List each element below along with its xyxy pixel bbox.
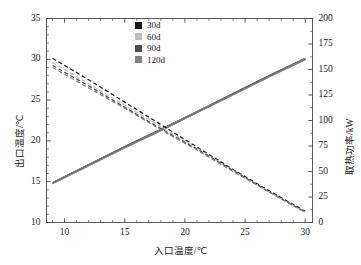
legend-item-30d[interactable]: 30d (135, 20, 165, 30)
x-tick-label-15: 15 (111, 227, 139, 237)
y-right-tick-label-0: 0 (319, 217, 343, 227)
legend-label-30d: 30d (147, 20, 161, 30)
y-left-tick-label-15: 15 (19, 176, 41, 186)
x-tick-label-25: 25 (231, 227, 259, 237)
legend-item-90d[interactable]: 90d (135, 43, 165, 53)
legend-item-60d[interactable]: 60d (135, 32, 165, 42)
y-right-tick-label-25: 25 (319, 191, 343, 201)
legend-item-120d[interactable]: 120d (135, 55, 165, 65)
y-right-tick-label-50: 50 (319, 166, 343, 176)
legend-label-60d: 60d (147, 32, 161, 42)
chart-figure (0, 0, 361, 265)
series-line-30d-right (53, 58, 306, 211)
chart-legend: 30d60d90d120d (135, 20, 165, 65)
y-right-tick-label-200: 200 (319, 13, 343, 23)
legend-label-120d: 120d (147, 55, 165, 65)
x-axis-title: 入口温度/℃ (0, 243, 361, 257)
y-left-tick-label-30: 30 (19, 53, 41, 63)
x-tick-label-30: 30 (291, 227, 319, 237)
legend-swatch-icon-60d (135, 33, 142, 40)
x-tick-label-10: 10 (51, 227, 79, 237)
legend-label-90d: 90d (147, 43, 161, 53)
series-line-120d-right (53, 67, 306, 212)
y-right-tick-label-175: 175 (319, 38, 343, 48)
y-right-tick-label-100: 100 (319, 115, 343, 125)
legend-swatch-icon-90d (135, 45, 142, 52)
legend-swatch-icon-120d (135, 56, 142, 63)
series-line-120d-left (53, 60, 306, 184)
y-left-tick-label-20: 20 (19, 135, 41, 145)
y-right-tick-label-125: 125 (319, 89, 343, 99)
y-left-tick-label-25: 25 (19, 94, 41, 104)
y-axis-right-title: 取热功率/kW (342, 119, 356, 175)
y-left-tick-label-10: 10 (19, 217, 41, 227)
legend-swatch-icon-30d (135, 22, 142, 29)
y-right-tick-label-150: 150 (319, 64, 343, 74)
y-right-tick-label-75: 75 (319, 140, 343, 150)
y-left-tick-label-35: 35 (19, 13, 41, 23)
x-tick-label-20: 20 (171, 227, 199, 237)
